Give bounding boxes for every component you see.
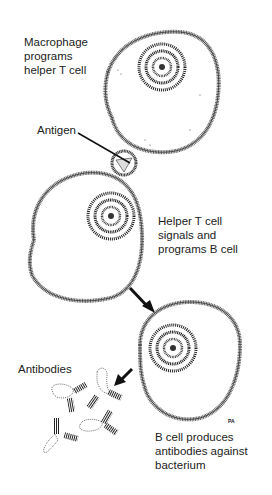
label-antigen: Antigen [37,123,76,137]
antibody [44,418,79,453]
artist-signature: PA [228,418,235,424]
label-antibodies: Antibodies [18,362,72,376]
antibodies [44,368,123,453]
label-macrophage: Macrophage programs helper T cell [24,35,88,77]
macrophage-cell [105,32,218,152]
arrow-to-antibodies [114,369,132,386]
antibody [87,368,123,409]
label-b-cell: B cell produces antibodies against bacte… [155,430,248,472]
helper-t-cell [30,173,142,301]
b-cell [140,302,240,419]
antibody [52,382,88,413]
label-helper-t-cell: Helper T cell signals and programs B cel… [158,214,238,256]
macrophage-nucleus [139,44,185,90]
antibody [80,409,119,435]
arrow-to-b-cell [130,288,155,313]
helper-t-nucleus [88,193,134,239]
b-cell-nucleus [150,325,196,371]
